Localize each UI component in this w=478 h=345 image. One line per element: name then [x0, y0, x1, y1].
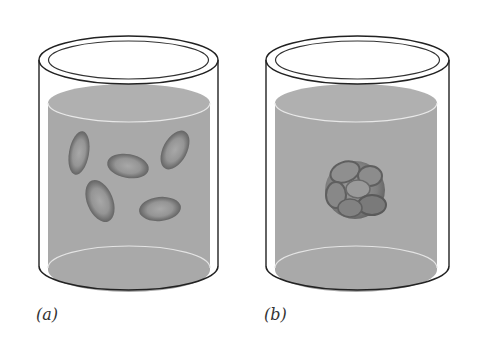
panel-label-a: (a)	[36, 305, 58, 324]
red-blood-cell	[358, 195, 386, 215]
beaker-b	[266, 36, 449, 292]
beaker-rim-b	[266, 36, 449, 84]
red-blood-cell	[338, 199, 362, 217]
beaker-rim-a	[39, 36, 218, 84]
figure-canvas	[0, 0, 478, 345]
blood-cell-cluster	[325, 157, 386, 219]
panel-label-b: (b)	[264, 305, 287, 324]
liquid-a	[48, 103, 210, 292]
beaker-a	[39, 36, 218, 292]
